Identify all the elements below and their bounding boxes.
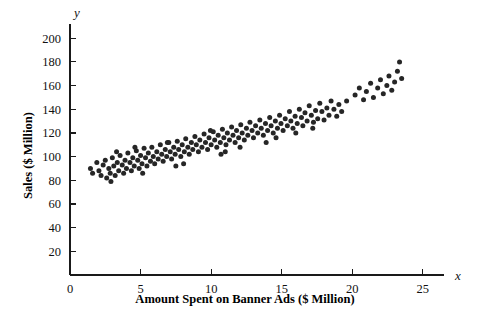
data-point — [219, 152, 224, 157]
data-point — [263, 121, 268, 126]
data-point — [146, 151, 151, 156]
data-point — [178, 154, 183, 159]
data-point — [324, 106, 329, 111]
data-point — [311, 120, 316, 125]
data-point — [175, 139, 180, 144]
data-point — [127, 160, 132, 165]
data-point — [149, 145, 154, 150]
data-point — [164, 154, 169, 159]
data-point — [151, 154, 156, 159]
y-tick-label: 60 — [49, 197, 62, 211]
data-point — [309, 113, 314, 118]
x-axis-title: Amount Spent on Banner Ads ($ Million) — [135, 292, 354, 306]
data-point — [269, 123, 274, 128]
data-point — [148, 159, 153, 164]
data-point — [285, 123, 290, 128]
data-point — [156, 156, 161, 161]
data-point — [152, 161, 157, 166]
data-point — [189, 140, 194, 145]
data-point — [209, 142, 214, 147]
x-axis-name: x — [454, 268, 461, 283]
data-point — [399, 76, 404, 81]
y-tick-label: 100 — [42, 150, 61, 164]
data-point — [169, 156, 174, 161]
data-point — [223, 149, 228, 154]
data-point — [265, 128, 270, 133]
y-axis-name: y — [72, 5, 80, 20]
data-point — [125, 151, 130, 156]
data-point — [101, 162, 106, 167]
data-point — [171, 145, 176, 150]
data-point — [208, 128, 213, 133]
data-point — [225, 130, 230, 135]
data-point — [371, 95, 376, 100]
data-point — [194, 142, 199, 147]
data-point — [103, 158, 108, 163]
data-point — [368, 81, 373, 86]
data-point — [293, 130, 298, 135]
data-point — [108, 171, 113, 176]
data-point — [293, 114, 298, 119]
data-point — [389, 88, 394, 93]
data-point — [381, 91, 386, 96]
data-point — [163, 147, 168, 152]
y-tick-label: 40 — [49, 221, 62, 235]
data-point — [140, 171, 145, 176]
data-point — [317, 101, 322, 106]
data-point — [181, 161, 186, 166]
data-point — [267, 115, 272, 120]
data-point — [259, 126, 264, 131]
data-point — [313, 108, 318, 113]
data-point — [283, 116, 288, 121]
data-point — [229, 125, 234, 130]
data-point — [96, 168, 101, 173]
data-point — [183, 136, 188, 141]
data-point — [106, 166, 111, 171]
data-point — [326, 113, 331, 118]
data-point — [165, 140, 170, 145]
data-point — [113, 173, 118, 178]
data-point — [205, 147, 210, 152]
scatter-plot-figure: 204060801001201401601802000510152025yxAm… — [0, 0, 491, 321]
data-point — [300, 123, 305, 128]
data-point — [295, 121, 300, 126]
data-point — [336, 102, 341, 107]
data-point — [180, 142, 185, 147]
data-point — [158, 142, 163, 147]
data-point — [375, 85, 380, 90]
data-point — [138, 153, 143, 158]
data-point — [242, 138, 247, 143]
data-point — [227, 138, 232, 143]
data-point — [220, 127, 225, 132]
data-point — [251, 135, 256, 140]
y-tick-label: 140 — [42, 103, 61, 117]
data-point — [212, 138, 217, 143]
y-tick-label: 200 — [42, 32, 61, 46]
data-point — [302, 110, 307, 115]
data-points-group — [88, 59, 404, 184]
data-point — [176, 147, 181, 152]
data-point — [159, 152, 164, 157]
x-tick-label: 0 — [67, 282, 73, 296]
data-point — [378, 77, 383, 82]
data-point — [386, 74, 391, 79]
data-point — [135, 158, 140, 163]
data-point — [110, 155, 115, 160]
data-point — [339, 109, 344, 114]
y-axis-title: Sales ($ Million) — [21, 112, 35, 199]
y-tick-label: 160 — [42, 79, 61, 93]
data-point — [129, 168, 134, 173]
data-point — [221, 135, 226, 140]
data-point — [331, 107, 336, 112]
data-point — [275, 126, 280, 131]
y-tick-label: 20 — [49, 245, 62, 259]
data-point — [361, 97, 366, 102]
data-point — [315, 116, 320, 121]
data-point — [88, 166, 93, 171]
data-point — [218, 140, 223, 145]
data-point — [274, 135, 279, 140]
data-point — [244, 126, 249, 131]
data-point — [278, 121, 283, 126]
data-point — [334, 114, 339, 119]
data-point — [123, 158, 128, 163]
